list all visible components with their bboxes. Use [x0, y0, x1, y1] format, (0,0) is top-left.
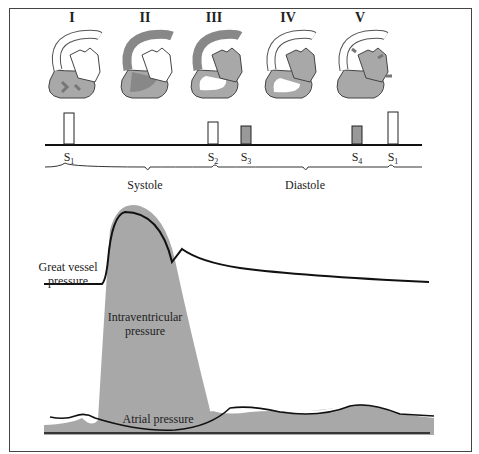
heart-icon-phase-2: [121, 34, 172, 98]
great-vessel-pressure-label: Great vessel pressure: [36, 260, 100, 288]
systole-label: Systole: [127, 178, 162, 193]
sound-bar-s4: [352, 126, 362, 144]
sound-label-s3: S3: [241, 150, 252, 166]
sound-bar-s3: [241, 126, 251, 144]
diagram-graphics: [0, 0, 479, 454]
intraventricular-pressure-label: Intraventricular pressure: [100, 310, 190, 338]
heart-icon-phase-4: [265, 34, 316, 98]
heart-icon-phase-1: [49, 34, 100, 98]
heart-icon-phase-5: [337, 34, 392, 98]
sound-label-s1: S1: [64, 150, 75, 166]
sound-bar-s1-next: [388, 112, 398, 144]
heart-icon-phase-3: [191, 34, 242, 98]
diastole-label: Diastole: [285, 178, 325, 193]
atrial-pressure-label: Atrial pressure: [113, 412, 203, 426]
sound-bar-s2: [208, 122, 218, 144]
sound-label-s4: S4: [352, 150, 363, 166]
great-vessel-pressure-line: [44, 212, 429, 284]
sound-bar-s1: [64, 113, 74, 144]
cycle-brace: [45, 163, 422, 170]
sound-label-s2: S2: [208, 150, 219, 166]
sound-label-s1-next: S1: [388, 150, 399, 166]
